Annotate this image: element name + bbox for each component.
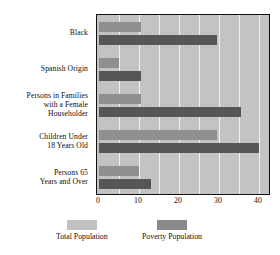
bar (99, 58, 119, 68)
category-label-line: Persons 65 (0, 168, 88, 177)
category-label-line: Children Under (0, 132, 88, 141)
bar (99, 130, 217, 140)
category-label-line: Householder (0, 109, 88, 118)
legend-label: Poverty Population (142, 232, 202, 241)
x-tick-label: 40 (254, 196, 262, 205)
category-label-line: Black (0, 28, 88, 37)
bar (99, 35, 217, 45)
category-label: Black (0, 28, 88, 37)
category-label: Persons 65Years and Over (0, 168, 88, 186)
chart-figure: BlackSpanish OriginPersons in Familieswi… (0, 0, 280, 255)
bar (99, 22, 141, 32)
chart-legend: Total PopulationPoverty Population (0, 220, 280, 250)
legend-swatch (157, 220, 187, 230)
x-tick-label: 20 (174, 196, 182, 205)
category-label: Children Under18 Years Old (0, 132, 88, 150)
category-label-line: Spanish Origin (0, 64, 88, 73)
category-label-line: Persons in Families (0, 91, 88, 100)
gridline (259, 15, 260, 194)
gridline (219, 15, 220, 194)
x-tick-label: 0 (96, 196, 100, 205)
plot-area (96, 14, 270, 195)
bar (99, 107, 241, 117)
bar (99, 71, 141, 81)
category-label-line: 18 Years Old (0, 141, 88, 150)
x-tick-label: 30 (214, 196, 222, 205)
legend-label: Total Population (56, 232, 108, 241)
x-axis: 010203040 (96, 196, 270, 210)
gridline (239, 15, 240, 194)
category-label-line: with a Female (0, 100, 88, 109)
bar (99, 94, 141, 104)
category-label: Persons in Familieswith a FemaleHousehol… (0, 91, 88, 119)
legend-item: Total Population (56, 220, 108, 241)
bar (99, 166, 139, 176)
legend-item: Poverty Population (142, 220, 202, 241)
bar (99, 179, 151, 189)
x-tick-label: 10 (134, 196, 142, 205)
category-label: Spanish Origin (0, 64, 88, 73)
bar (99, 143, 259, 153)
legend-swatch (67, 220, 97, 230)
category-label-line: Years and Over (0, 177, 88, 186)
category-labels: BlackSpanish OriginPersons in Familieswi… (0, 14, 92, 195)
